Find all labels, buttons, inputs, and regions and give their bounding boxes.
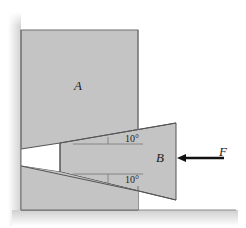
label-block-a: A (73, 78, 82, 93)
label-force: F (218, 144, 228, 159)
label-angle-bottom: 10° (125, 174, 139, 185)
force-arrow (177, 154, 224, 162)
wedge-diagram: A B F 10° 10° (0, 0, 246, 228)
wall (8, 12, 21, 226)
floor (12, 210, 238, 226)
label-angle-top: 10° (125, 133, 139, 144)
label-wedge-b: B (156, 150, 164, 165)
arrowhead-icon (177, 154, 186, 162)
